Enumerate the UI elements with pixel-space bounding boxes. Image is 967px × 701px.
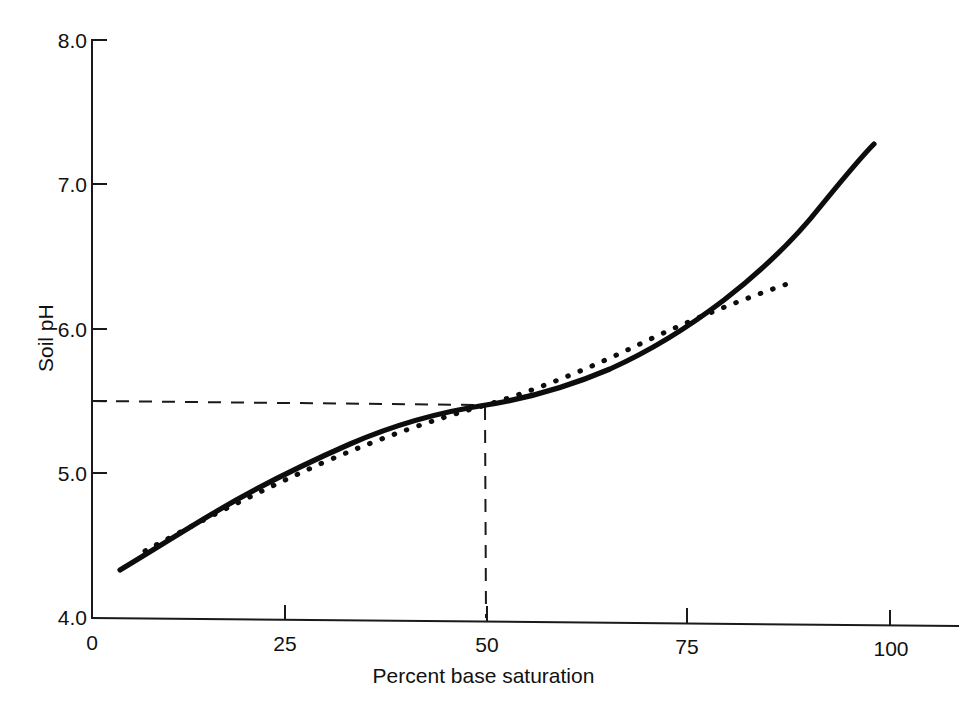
horizontal-reference-line [93,401,484,405]
chart-plot-area [0,0,967,701]
vertical-reference-line [485,407,486,618]
y-axis-ticks [92,40,107,473]
x-axis-line [92,618,958,626]
soil-ph-curve [120,144,874,570]
chart-figure: 8.0 7.0 6.0 5.0 4.0 0 25 50 75 100 Soil … [0,0,967,701]
